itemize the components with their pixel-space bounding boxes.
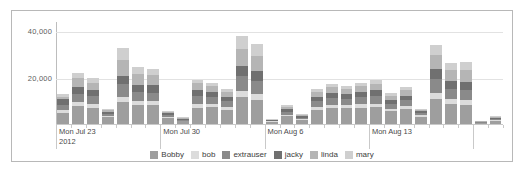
bar-segment-bobby[interactable]	[355, 108, 367, 124]
bar[interactable]	[296, 114, 308, 124]
bar[interactable]	[266, 119, 278, 124]
bar[interactable]	[475, 121, 487, 124]
bar[interactable]	[147, 69, 159, 124]
bar-segment-bobby[interactable]	[236, 97, 248, 124]
bar-segment-bobby[interactable]	[281, 116, 293, 124]
bar-segment-mary[interactable]	[460, 62, 472, 70]
bar-segment-bobby[interactable]	[400, 109, 412, 124]
bar-segment-bobby[interactable]	[87, 108, 99, 124]
bar-segment-jacky[interactable]	[72, 87, 84, 94]
bar-segment-extrauser[interactable]	[460, 90, 472, 100]
bar[interactable]	[102, 109, 114, 124]
bar-segment-bobby[interactable]	[132, 105, 144, 124]
bar-segment-bobby[interactable]	[57, 113, 69, 124]
bar[interactable]	[72, 73, 84, 124]
bar-segment-bobby[interactable]	[147, 105, 159, 124]
bar-segment-jacky[interactable]	[147, 85, 159, 92]
bar-segment-linda[interactable]	[236, 49, 248, 66]
bar-segment-bobby[interactable]	[341, 108, 353, 124]
bar[interactable]	[326, 84, 338, 124]
bar-segment-linda[interactable]	[445, 70, 457, 81]
bar[interactable]	[400, 87, 412, 124]
bar-segment-extrauser[interactable]	[72, 94, 84, 102]
bar-segment-bobby[interactable]	[177, 121, 189, 124]
bar[interactable]	[87, 78, 99, 124]
bar-segment-extrauser[interactable]	[355, 97, 367, 104]
bar-segment-extrauser[interactable]	[117, 84, 129, 97]
bar[interactable]	[117, 48, 129, 124]
bar[interactable]	[311, 89, 323, 124]
bar[interactable]	[355, 83, 367, 124]
bar-segment-bobby[interactable]	[102, 117, 114, 124]
bar-segment-bobby[interactable]	[475, 123, 487, 124]
bar[interactable]	[370, 80, 382, 124]
bar-segment-jacky[interactable]	[236, 66, 248, 76]
bar-segment-extrauser[interactable]	[132, 92, 144, 101]
bar-segment-bobby[interactable]	[162, 118, 174, 124]
bar[interactable]	[430, 45, 442, 124]
bar[interactable]	[385, 93, 397, 124]
bar[interactable]	[162, 111, 174, 124]
bar-segment-bobby[interactable]	[385, 111, 397, 124]
bar[interactable]	[341, 86, 353, 124]
bar-segment-bobby[interactable]	[251, 100, 263, 124]
bar-segment-extrauser[interactable]	[192, 96, 204, 104]
bar-segment-jacky[interactable]	[132, 85, 144, 92]
bar-segment-bobby[interactable]	[117, 102, 129, 124]
bar-segment-extrauser[interactable]	[236, 76, 248, 91]
bar-segment-mary[interactable]	[445, 63, 457, 70]
bar-segment-linda[interactable]	[147, 75, 159, 85]
bar-segment-bobby[interactable]	[490, 121, 502, 124]
bar[interactable]	[251, 44, 263, 124]
bar-segment-extrauser[interactable]	[326, 98, 338, 105]
bar-segment-bobby[interactable]	[296, 120, 308, 124]
bar[interactable]	[415, 108, 427, 124]
bar-segment-bobby[interactable]	[370, 107, 382, 124]
bar-segment-bobby[interactable]	[430, 99, 442, 124]
bar-segment-jacky[interactable]	[117, 76, 129, 84]
legend-item-bob[interactable]: bob	[191, 150, 215, 159]
bar-segment-jacky[interactable]	[460, 82, 472, 90]
bar-segment-jacky[interactable]	[251, 71, 263, 80]
legend-item-mary[interactable]: mary	[345, 150, 374, 159]
bar-segment-bobby[interactable]	[415, 117, 427, 124]
bar-segment-linda[interactable]	[251, 56, 263, 72]
bar[interactable]	[236, 36, 248, 124]
legend-item-bobby[interactable]: Bobby	[150, 150, 184, 159]
bar[interactable]	[192, 80, 204, 125]
bar-segment-mary[interactable]	[430, 45, 442, 55]
bar-segment-linda[interactable]	[132, 74, 144, 85]
legend-item-linda[interactable]: linda	[310, 150, 338, 159]
bar-segment-bobby[interactable]	[266, 122, 278, 124]
bar[interactable]	[132, 67, 144, 124]
bar-segment-extrauser[interactable]	[147, 93, 159, 102]
bar-segment-extrauser[interactable]	[430, 79, 442, 93]
legend-item-jacky[interactable]: jacky	[274, 150, 303, 159]
bar-segment-bobby[interactable]	[311, 110, 323, 124]
bar[interactable]	[490, 116, 502, 124]
bar-segment-mary[interactable]	[117, 48, 129, 60]
bar-segment-linda[interactable]	[430, 55, 442, 69]
bar[interactable]	[206, 83, 218, 124]
bar-segment-extrauser[interactable]	[206, 97, 218, 104]
bar-segment-extrauser[interactable]	[251, 81, 263, 95]
bar-segment-linda[interactable]	[460, 70, 472, 82]
bar-segment-linda[interactable]	[72, 78, 84, 87]
bar-segment-jacky[interactable]	[430, 69, 442, 79]
legend-item-extrauser[interactable]: extrauser	[222, 150, 266, 159]
bar-segment-mary[interactable]	[251, 44, 263, 56]
bar-segment-linda[interactable]	[117, 60, 129, 76]
bar[interactable]	[445, 63, 457, 124]
bar[interactable]	[57, 94, 69, 124]
bar[interactable]	[221, 89, 233, 124]
bar-segment-jacky[interactable]	[445, 81, 457, 89]
bar-segment-bobby[interactable]	[445, 104, 457, 124]
bar[interactable]	[460, 62, 472, 124]
bar-segment-extrauser[interactable]	[87, 96, 99, 105]
bar-segment-linda[interactable]	[87, 83, 99, 90]
bar-segment-extrauser[interactable]	[370, 96, 382, 103]
bar-segment-extrauser[interactable]	[445, 89, 457, 99]
bar[interactable]	[177, 117, 189, 124]
bar-segment-bobby[interactable]	[326, 108, 338, 124]
bar-segment-bobby[interactable]	[72, 106, 84, 124]
